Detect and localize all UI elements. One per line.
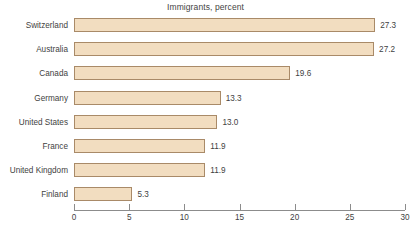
bar-row: Germany13.3 [0, 90, 411, 107]
bar-row: United Kingdom11.9 [0, 162, 411, 179]
bar [74, 66, 290, 80]
bar-row: Australia27.2 [0, 41, 411, 58]
bar-value-label: 27.3 [380, 17, 396, 34]
x-axis-tick [74, 204, 75, 210]
x-axis-tick [405, 204, 406, 210]
x-axis-tick [240, 204, 241, 210]
bar-value-label: 19.6 [295, 65, 311, 82]
bar-value-label: 11.9 [210, 162, 225, 179]
chart-title: Immigrants, percent [0, 2, 411, 12]
x-axis-tick [184, 204, 185, 210]
bar-row: Finland5.3 [0, 186, 411, 203]
bar-row: United States13.0 [0, 114, 411, 131]
bar-value-label: 11.9 [210, 138, 225, 155]
category-label: United States [0, 114, 68, 131]
x-axis-tick [350, 204, 351, 210]
category-label: Finland [0, 186, 68, 203]
bar [74, 42, 374, 56]
bar-row: Switzerland27.3 [0, 17, 411, 34]
category-label: Australia [0, 41, 68, 58]
bar [74, 115, 217, 129]
x-axis-tick-label: 10 [172, 213, 196, 222]
category-label: United Kingdom [0, 162, 68, 179]
bar [74, 18, 375, 32]
bar [74, 139, 205, 153]
category-label: Switzerland [0, 17, 68, 34]
bar [74, 91, 221, 105]
bar-value-label: 13.3 [226, 90, 242, 107]
x-axis-tick-label: 0 [62, 213, 86, 222]
x-axis-line [74, 210, 405, 211]
bar [74, 187, 132, 201]
plot-area: Switzerland27.3Australia27.2Canada19.6Ge… [0, 16, 411, 206]
x-axis-tick-label: 25 [338, 213, 362, 222]
bar [74, 163, 205, 177]
x-axis-tick-label: 15 [228, 213, 252, 222]
category-label: Canada [0, 65, 68, 82]
bar-value-label: 13.0 [222, 114, 238, 131]
x-axis-tick-label: 5 [117, 213, 141, 222]
x-axis-tick-label: 30 [393, 213, 411, 222]
bar-value-label: 27.2 [379, 41, 395, 58]
bar-row: Canada19.6 [0, 65, 411, 82]
x-axis-tick [129, 204, 130, 210]
category-label: France [0, 138, 68, 155]
bar-value-label: 5.3 [137, 186, 148, 203]
category-label: Germany [0, 90, 68, 107]
x-axis-tick-label: 20 [283, 213, 307, 222]
x-axis-tick [295, 204, 296, 210]
immigrants-percent-bar-chart: Immigrants, percent Switzerland27.3Austr… [0, 0, 411, 235]
bar-row: France11.9 [0, 138, 411, 155]
